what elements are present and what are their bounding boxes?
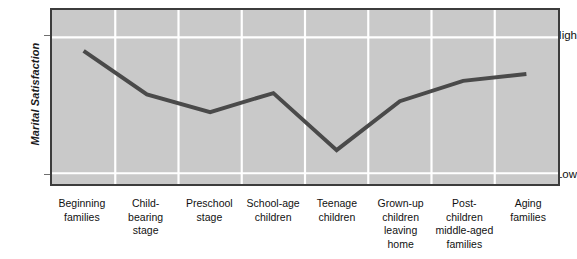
x-axis-category-8: Agingfamilies (496, 192, 560, 258)
x-axis-category-line: School-age (241, 197, 305, 211)
x-axis-category-line: middle-aged (433, 224, 497, 238)
x-axis-category-line: stage (178, 211, 242, 225)
x-axis-category-line: Beginning (50, 197, 114, 211)
x-axis-category-line: Preschool (178, 197, 242, 211)
x-axis-category-2: Child-bearingstage (114, 192, 178, 258)
x-axis-category-line: Child- (114, 197, 178, 211)
x-axis-category-line: families (433, 238, 497, 252)
x-axis-category-line: bearing (114, 211, 178, 225)
x-axis-category-6: Grown-upchildrenleavinghome (369, 192, 433, 258)
x-axis-category-labels: BeginningfamiliesChild-bearingstagePresc… (50, 192, 560, 258)
x-axis-category-line: children (305, 211, 369, 225)
x-axis-category-line: stage (114, 224, 178, 238)
x-axis-category-7: Post-childrenmiddle-agedfamilies (433, 192, 497, 258)
x-axis-category-line: leaving (369, 224, 433, 238)
x-axis-category-line: Grown-up (369, 197, 433, 211)
x-axis-category-1: Beginningfamilies (50, 192, 114, 258)
x-axis-category-4: School-agechildren (241, 192, 305, 258)
x-axis-category-3: Preschoolstage (178, 192, 242, 258)
marital-satisfaction-chart: Marital Satisfaction High Low Beginningf… (0, 0, 577, 259)
x-axis-category-line: Post- (433, 197, 497, 211)
x-axis-category-line: families (50, 211, 114, 225)
x-axis-category-5: Teenagechildren (305, 192, 369, 258)
y-axis-label: Marital Satisfaction (29, 14, 41, 174)
plot-svg (52, 10, 558, 184)
x-axis-category-line: Teenage (305, 197, 369, 211)
plot-area (50, 8, 560, 186)
x-axis-category-line: children (369, 211, 433, 225)
x-axis-category-line: Aging (496, 197, 560, 211)
x-axis-category-line: home (369, 238, 433, 252)
x-axis-category-line: children (433, 211, 497, 225)
x-axis-category-line: children (241, 211, 305, 225)
x-axis-category-line: families (496, 211, 560, 225)
vertical-gridlines (115, 10, 495, 184)
